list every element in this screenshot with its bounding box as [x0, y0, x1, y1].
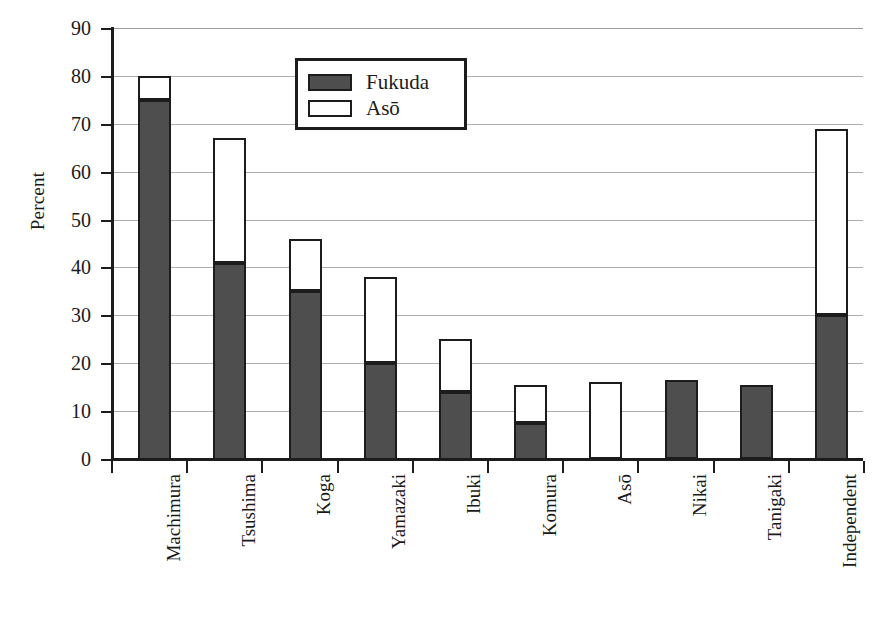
bar-stack [665, 380, 698, 459]
y-axis-tick-label: 50 [39, 210, 101, 230]
x-axis-tick [788, 461, 790, 473]
x-axis-tick-label: Koga [314, 474, 333, 515]
bar-segment-fukuda [439, 392, 472, 459]
legend-item-aso: Asō [308, 95, 454, 121]
bar-segment-fukuda [289, 291, 322, 459]
x-axis-tick-label: Asō [615, 474, 634, 505]
legend-swatch-fukuda [308, 74, 352, 91]
plot-area [111, 28, 863, 459]
bar-segment-aso [364, 277, 397, 363]
y-axis-tick-label: 0 [39, 449, 101, 469]
bar-segment-fukuda [815, 315, 848, 459]
bar-segment-aso [439, 339, 472, 392]
x-axis-tick [186, 461, 188, 473]
x-axis-tick-label: Tanigaki [765, 474, 784, 540]
y-axis-tick-label: 80 [39, 66, 101, 86]
bar-chart-figure: Percent 0102030405060708090 MachimuraTsu… [0, 0, 888, 618]
x-axis-tick [863, 461, 865, 473]
y-axis-tick-label: 90 [39, 18, 101, 38]
x-axis-tick [487, 461, 489, 473]
bar-segment-aso [815, 129, 848, 316]
y-axis-tick-label: 60 [39, 162, 101, 182]
x-axis-tick [337, 461, 339, 473]
bar-segment-fukuda [364, 363, 397, 459]
x-axis-tick-label: Nikai [690, 474, 709, 516]
legend-label-aso: Asō [366, 98, 400, 119]
x-axis-tick-label: Machimura [164, 474, 183, 562]
x-axis-tick-label: Ibuki [464, 474, 483, 514]
x-axis-tick [637, 461, 639, 473]
bar-stack [439, 339, 472, 459]
bar-segment-fukuda [665, 380, 698, 459]
bar-stack [138, 76, 171, 459]
chart-legend: Fukuda Asō [295, 58, 467, 130]
y-axis-tick-label: 20 [39, 353, 101, 373]
bar-segment-aso [138, 76, 171, 100]
bar-stack [289, 239, 322, 459]
bar-segment-aso [589, 382, 622, 459]
bar-segment-fukuda [213, 263, 246, 459]
x-axis-tick-label: Independent [840, 474, 859, 568]
gridline [111, 76, 863, 77]
y-axis-tick-label: 10 [39, 401, 101, 421]
bar-segment-aso [289, 239, 322, 292]
x-axis-tick-label: Tsushima [239, 474, 258, 547]
bar-stack [514, 385, 547, 459]
x-axis-tick [713, 461, 715, 473]
bar-stack [815, 129, 848, 459]
gridline [111, 124, 863, 125]
bar-segment-fukuda [514, 423, 547, 459]
bar-stack [740, 385, 773, 459]
legend-label-fukuda: Fukuda [366, 72, 429, 93]
legend-item-fukuda: Fukuda [308, 69, 454, 95]
bar-segment-aso [514, 385, 547, 423]
x-axis-tick [562, 461, 564, 473]
bar-stack [364, 277, 397, 459]
bar-segment-aso [213, 138, 246, 263]
gridline [111, 28, 863, 29]
x-axis-tick-label: Yamazaki [389, 474, 408, 549]
bar-stack [213, 138, 246, 459]
legend-swatch-aso [308, 100, 352, 117]
x-axis-tick [412, 461, 414, 473]
bar-segment-fukuda [740, 385, 773, 459]
y-axis-tick-label: 40 [39, 257, 101, 277]
y-axis-title: Percent [27, 141, 49, 261]
y-axis-tick-label: 30 [39, 305, 101, 325]
y-axis-tick-label: 70 [39, 114, 101, 134]
x-axis-tick-label: Komura [540, 474, 559, 536]
y-axis-line [111, 27, 114, 461]
bar-stack [589, 382, 622, 459]
x-axis-tick [111, 461, 113, 473]
bar-segment-fukuda [138, 100, 171, 459]
x-axis-tick [261, 461, 263, 473]
